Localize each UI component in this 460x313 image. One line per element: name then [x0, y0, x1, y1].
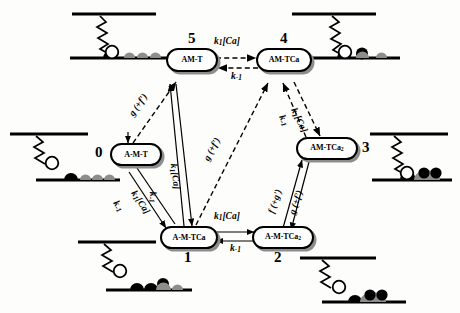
cartoon-top-left: [70, 14, 182, 58]
state-number-5: 5: [188, 30, 196, 47]
transition-0-to-5: [133, 82, 176, 143]
state-label-4: AM-TCa: [269, 56, 300, 64]
rate-label-1-to-2: k1[Ca]: [214, 211, 240, 222]
rate-label-5-to-4: k1[Ca]: [214, 36, 240, 47]
rate-label-2-to-1: k-1: [230, 243, 241, 254]
state-label-5: AM-T: [182, 56, 203, 64]
state-node-1[interactable]: A-M-TCa: [160, 226, 218, 249]
rate-k-tail: [Ca]: [222, 36, 239, 46]
rate-label-4-to-5: k-1: [231, 71, 242, 82]
cartoon-mid-left: [10, 134, 120, 180]
cartoon-bottom-left: [78, 242, 192, 290]
state-label-3: AM-TCa: [310, 144, 341, 152]
state-node-4[interactable]: AM-TCa: [256, 48, 312, 72]
state-node-0[interactable]: A-M-T: [110, 143, 162, 166]
rate-kminus-sub: -1: [236, 73, 242, 82]
state-node-2[interactable]: A-M-TCa2: [252, 226, 314, 249]
state-label-2: A-M-TCa: [265, 233, 298, 241]
state-label-0: A-M-T: [124, 151, 148, 159]
state-label-1: A-M-TCa: [172, 234, 205, 242]
cartoon-mid-right: [370, 134, 452, 180]
rate-label-5-to-1: k-1: [146, 191, 159, 203]
state-node-5[interactable]: AM-T: [166, 48, 218, 72]
state-number-1: 1: [184, 249, 192, 266]
state-diagram-figure: AM-T 5 AM-TCa 4 A-M-T 0 AM-TCa2 3 A-M-TC…: [0, 0, 460, 313]
cartoon-bottom-right: [300, 258, 406, 302]
state-number-0: 0: [95, 144, 103, 161]
state-node-3[interactable]: AM-TCa2: [296, 137, 358, 160]
state-number-3: 3: [362, 139, 370, 156]
transition-1-to-5: [170, 84, 192, 226]
state-number-2: 2: [274, 249, 282, 266]
state-label-2-sub: 2: [298, 235, 301, 241]
state-label-3-sub: 2: [341, 146, 344, 152]
state-number-4: 4: [280, 30, 288, 47]
